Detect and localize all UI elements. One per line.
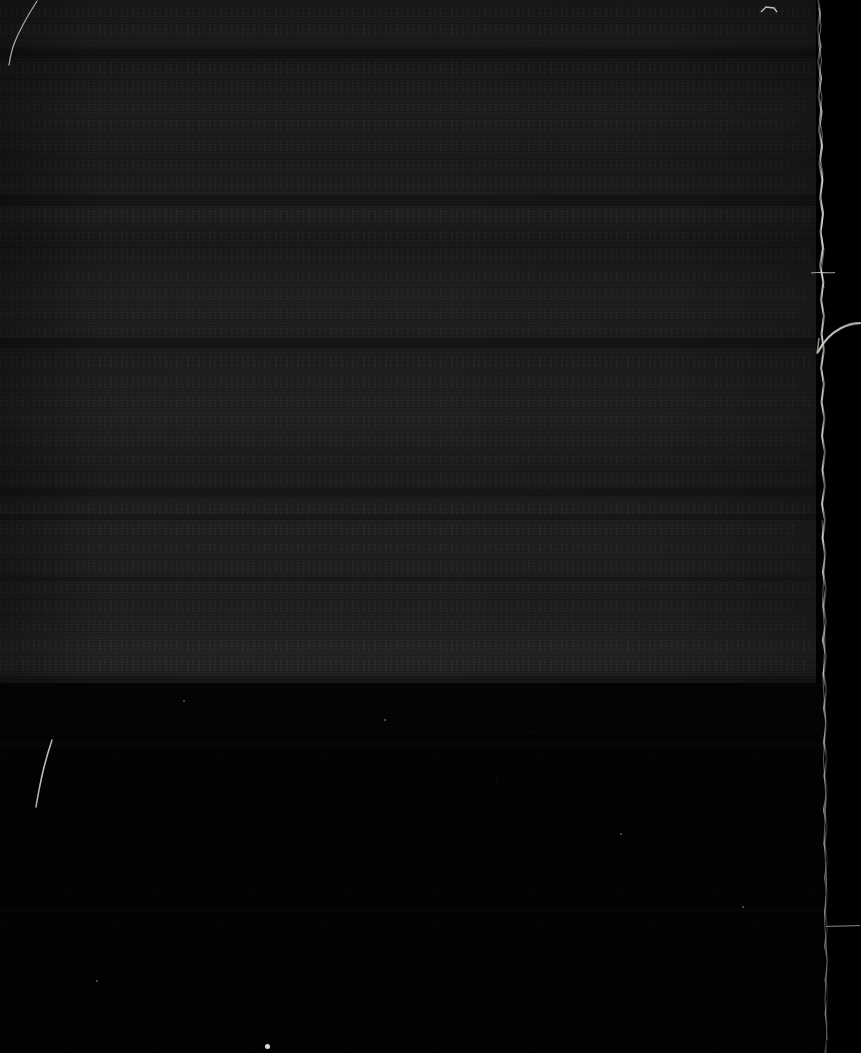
edge-fiber-lower-icon bbox=[826, 915, 861, 921]
gap-band bbox=[0, 195, 816, 206]
text-line bbox=[0, 416, 790, 427]
gap-band bbox=[0, 338, 816, 348]
gap-band bbox=[0, 676, 816, 683]
text-line bbox=[0, 435, 807, 446]
text-line bbox=[0, 474, 811, 485]
gap-band bbox=[0, 514, 816, 520]
gap-band bbox=[0, 576, 816, 581]
text-line bbox=[0, 396, 812, 407]
text-line bbox=[0, 120, 795, 131]
gap-band bbox=[0, 48, 816, 58]
text-line bbox=[0, 140, 811, 151]
lower-tone-band bbox=[0, 742, 824, 748]
text-line bbox=[0, 100, 808, 111]
text-line bbox=[0, 289, 808, 300]
scan-canvas: Underexposed document scan Scanned page … bbox=[0, 0, 861, 1053]
text-line bbox=[0, 62, 812, 74]
scanline-texture bbox=[0, 0, 816, 683]
text-line bbox=[0, 6, 810, 17]
text-line bbox=[0, 503, 809, 515]
text-line bbox=[0, 210, 813, 222]
page-vignette bbox=[0, 0, 816, 683]
text-line bbox=[0, 82, 800, 93]
gap-band bbox=[0, 488, 816, 497]
text-line bbox=[0, 250, 810, 261]
text-line bbox=[0, 562, 803, 573]
text-line bbox=[0, 543, 812, 554]
text-line bbox=[0, 24, 806, 35]
text-line bbox=[0, 620, 808, 631]
text-line bbox=[0, 270, 792, 281]
lower-dark-region bbox=[0, 683, 824, 1053]
text-line bbox=[0, 601, 793, 612]
text-line bbox=[0, 377, 798, 388]
text-line bbox=[0, 582, 810, 593]
page-tone-gradient bbox=[0, 0, 816, 683]
text-line bbox=[0, 231, 802, 242]
text-line bbox=[0, 178, 806, 189]
text-line bbox=[0, 160, 788, 171]
text-line bbox=[0, 659, 806, 671]
text-line bbox=[0, 356, 810, 368]
text-line bbox=[0, 308, 800, 319]
text-line bbox=[0, 326, 813, 337]
text-line bbox=[0, 524, 796, 535]
lower-tone-band bbox=[0, 908, 824, 912]
document-page bbox=[0, 0, 816, 683]
text-line bbox=[0, 640, 812, 651]
text-line bbox=[0, 455, 801, 466]
